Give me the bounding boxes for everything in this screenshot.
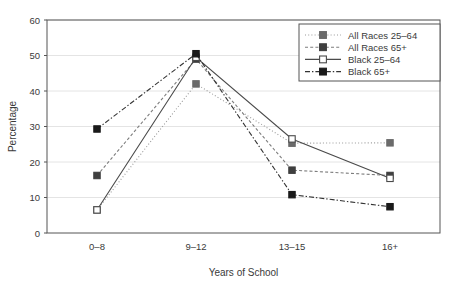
legend-label: Black 25–64 — [348, 54, 400, 65]
legend-item-all-races-65: All Races 65+ — [305, 42, 407, 53]
data-point-marker — [94, 126, 100, 132]
data-point-marker — [387, 175, 393, 181]
y-axis: 0102030405060 — [29, 15, 47, 239]
y-tick-label: 30 — [29, 121, 40, 132]
data-point-marker — [94, 172, 100, 178]
legend-item-all-races-25-64: All Races 25–64 — [305, 30, 417, 41]
data-point-marker — [193, 81, 199, 87]
x-tick-label: 13–15 — [279, 241, 305, 252]
x-axis: 0–89–1213–1516+Years of School — [89, 241, 398, 278]
data-point-marker — [387, 204, 393, 210]
data-point-marker — [289, 167, 295, 173]
y-tick-label: 0 — [35, 228, 40, 239]
data-point-marker — [289, 136, 295, 142]
y-tick-label: 10 — [29, 192, 40, 203]
y-tick-label: 60 — [29, 15, 40, 26]
legend-label: Black 65+ — [348, 66, 390, 77]
data-point-marker — [289, 191, 295, 197]
legend: All Races 25–64All Races 65+Black 25–64B… — [299, 24, 440, 81]
x-tick-label: 0–8 — [89, 241, 105, 252]
line-chart: 0102030405060Percentage0–89–1213–1516+Ye… — [0, 0, 454, 286]
legend-marker-sample — [320, 32, 327, 39]
x-tick-label: 16+ — [382, 241, 399, 252]
x-tick-label: 9–12 — [185, 241, 206, 252]
data-point-marker — [387, 140, 393, 146]
legend-item-black-25-64: Black 25–64 — [305, 54, 400, 65]
y-tick-label: 40 — [29, 86, 40, 97]
x-axis-title: Years of School — [209, 267, 279, 278]
y-axis-title: Percentage — [7, 100, 18, 152]
legend-marker-sample — [320, 44, 327, 51]
legend-label: All Races 65+ — [348, 42, 407, 53]
chart-figure: 0102030405060Percentage0–89–1213–1516+Ye… — [0, 0, 454, 286]
legend-marker-sample — [320, 56, 327, 63]
series-line — [97, 84, 390, 210]
legend-marker-sample — [320, 68, 327, 75]
legend-label: All Races 25–64 — [348, 30, 417, 41]
data-point-marker — [193, 51, 199, 57]
y-tick-label: 20 — [29, 157, 40, 168]
series-all-races-25-64 — [94, 81, 393, 213]
data-point-marker — [94, 207, 100, 213]
y-tick-label: 50 — [29, 50, 40, 61]
